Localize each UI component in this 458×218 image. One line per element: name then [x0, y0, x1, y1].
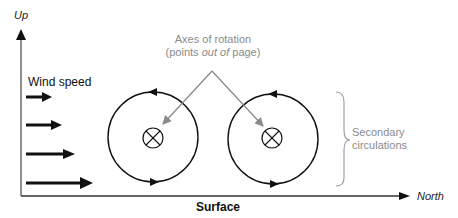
wind-arrows — [26, 92, 93, 189]
x-axis-title: Surface — [196, 200, 240, 214]
into-page-axis-icon — [262, 128, 282, 148]
wind-arrow-3 — [26, 149, 75, 159]
secondary-circulations-label: Secondary circulations — [352, 126, 407, 152]
secondary-circulations-brace-icon — [336, 92, 350, 186]
y-axis — [16, 29, 26, 196]
circulation-right — [228, 90, 318, 188]
rotation-axes-label: Axes of rotation (points out of page) — [158, 33, 268, 59]
y-axis-arrowhead-icon — [16, 29, 26, 40]
rotation-axes-pointers — [163, 71, 263, 126]
wind-arrow-1 — [26, 92, 52, 102]
rotation-arrow-bottom-icon — [150, 178, 159, 186]
circulation-left — [108, 88, 198, 186]
x-axis-arrowhead-icon — [399, 192, 410, 200]
y-axis-label: Up — [14, 9, 28, 21]
secondary-line1: Secondary — [352, 126, 407, 139]
into-page-axis-icon — [143, 128, 163, 148]
rotation-axes-line2: (points out of page) — [158, 46, 268, 59]
wind-arrow-4 — [26, 177, 93, 189]
wind-speed-label: Wind speed — [28, 75, 91, 89]
wind-arrow-2 — [26, 120, 62, 130]
rotation-arrow-top-icon — [148, 88, 157, 96]
rotation-arrow-top-icon — [268, 90, 277, 98]
rotation-arrow-bottom-icon — [270, 180, 279, 188]
x-axis-label: North — [417, 190, 444, 202]
rotation-axes-line1: Axes of rotation — [158, 33, 268, 46]
secondary-line2: circulations — [352, 139, 407, 152]
x-axis — [21, 192, 410, 200]
